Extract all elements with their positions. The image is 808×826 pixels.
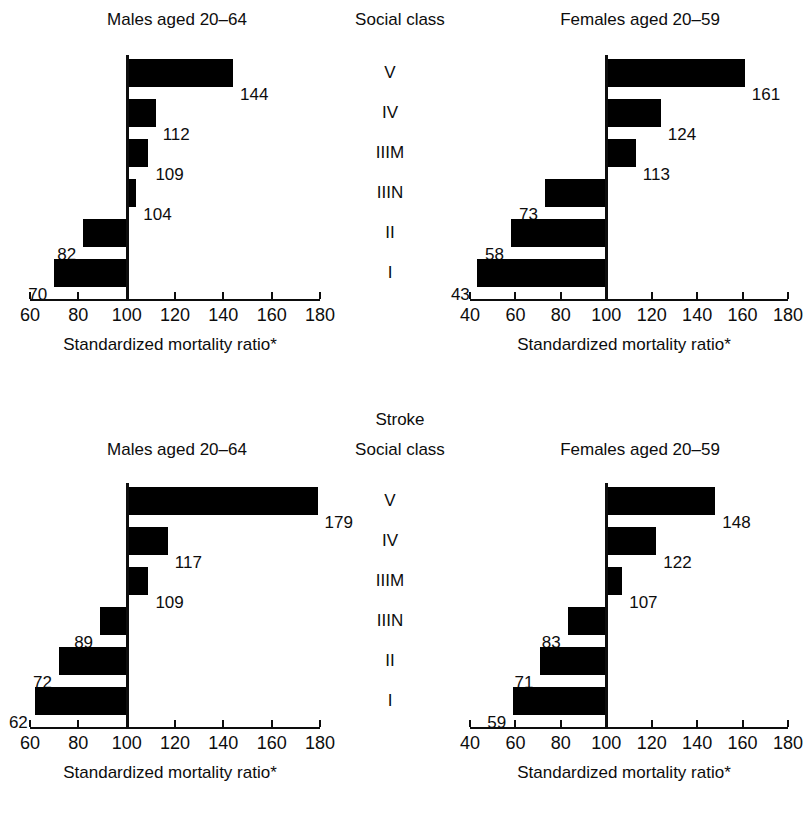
bar — [606, 527, 656, 555]
bar-value-label: 117 — [175, 549, 202, 577]
x-axis-tick — [271, 292, 273, 299]
bar-value-label: 144 — [240, 81, 268, 109]
bar — [35, 687, 127, 715]
social-class-label: IV — [382, 527, 398, 555]
social-class-label: IIIN — [377, 179, 403, 207]
plot-top-right: 161124113735843406080100120140160180Stan… — [440, 55, 808, 340]
x-axis-tick — [651, 292, 653, 299]
x-axis-tick — [469, 720, 471, 727]
bar — [545, 179, 606, 207]
bar — [477, 259, 606, 287]
x-axis-tick — [77, 720, 79, 727]
bar-value-label: 109 — [155, 161, 183, 189]
social-class-label: II — [385, 219, 394, 247]
x-axis-tick — [696, 720, 698, 727]
x-axis-tick — [514, 720, 516, 727]
social-class-column-bottom: VIVIIIMIIINIII — [340, 483, 440, 743]
social-class-label: II — [385, 647, 394, 675]
x-axis-tick — [560, 720, 562, 727]
x-axis-tick — [271, 720, 273, 727]
x-axis-tick-label: 120 — [637, 305, 667, 326]
bar — [513, 687, 606, 715]
x-axis-line — [30, 299, 320, 301]
bar — [127, 99, 156, 127]
bar — [511, 219, 606, 247]
bar — [568, 607, 607, 635]
x-axis-line — [30, 727, 320, 729]
x-axis-tick-label: 120 — [160, 305, 190, 326]
bar — [606, 59, 745, 87]
bar-value-label: 109 — [155, 589, 183, 617]
social-class-label: IIIM — [376, 567, 404, 595]
social-class-label: V — [384, 487, 395, 515]
bar-value-label: 161 — [752, 81, 780, 109]
x-axis-tick — [514, 292, 516, 299]
x-axis-tick-label: 140 — [208, 733, 238, 754]
x-axis-tick — [29, 292, 31, 299]
x-axis-title: Standardized mortality ratio* — [0, 763, 340, 783]
bar — [606, 487, 715, 515]
x-axis-tick-label: 140 — [208, 305, 238, 326]
chart-title-bottom-right: Females aged 20–59 — [520, 440, 760, 460]
x-axis-tick — [651, 720, 653, 727]
bar — [606, 567, 622, 595]
plot-top-left: 14411210910482706080100120140160180Stand… — [0, 55, 340, 340]
x-axis-tick — [319, 292, 321, 299]
x-axis-tick — [560, 292, 562, 299]
section-title-stroke: Stroke — [330, 410, 470, 430]
x-axis-tick-label: 100 — [591, 733, 621, 754]
bar — [54, 259, 127, 287]
x-axis-tick — [29, 720, 31, 727]
x-axis-tick-label: 160 — [728, 733, 758, 754]
x-axis-tick-label: 60 — [505, 305, 525, 326]
chart-title-top-left: Males aged 20–64 — [62, 10, 292, 30]
x-axis-tick-label: 160 — [257, 305, 287, 326]
social-class-header-top: Social class — [330, 10, 470, 30]
x-axis-tick-label: 100 — [591, 305, 621, 326]
social-class-column-top: VIVIIIMIIINIII — [340, 55, 440, 315]
social-class-label: I — [388, 259, 393, 287]
bar — [540, 647, 606, 675]
baseline-100 — [605, 483, 608, 727]
x-axis-tick-label: 120 — [637, 733, 667, 754]
social-class-label: IIIM — [376, 139, 404, 167]
x-axis-tick-label: 80 — [68, 733, 88, 754]
bar — [127, 487, 318, 515]
bar-value-label: 59 — [487, 709, 506, 737]
x-axis-tick-label: 100 — [112, 733, 142, 754]
x-axis-tick-label: 60 — [20, 733, 40, 754]
x-axis-tick — [222, 292, 224, 299]
x-axis-tick-label: 60 — [20, 305, 40, 326]
x-axis-tick-label: 60 — [505, 733, 525, 754]
x-axis-line — [470, 299, 788, 301]
x-axis-tick-label: 80 — [551, 305, 571, 326]
social-class-label: I — [388, 687, 393, 715]
x-axis-tick — [174, 720, 176, 727]
x-axis-tick-label: 140 — [682, 305, 712, 326]
bar — [606, 139, 636, 167]
x-axis-tick — [222, 720, 224, 727]
bar-value-label: 113 — [643, 161, 670, 189]
social-class-label: IIIN — [377, 607, 403, 635]
x-axis-tick-label: 160 — [728, 305, 758, 326]
x-axis-tick-label: 180 — [305, 733, 335, 754]
x-axis-tick — [787, 292, 789, 299]
chart-title-bottom-left: Males aged 20–64 — [62, 440, 292, 460]
social-class-header-bottom: Social class — [330, 440, 470, 460]
x-axis-tick-label: 80 — [68, 305, 88, 326]
x-axis-tick-label: 140 — [682, 733, 712, 754]
x-axis-tick — [126, 720, 128, 727]
x-axis-tick — [742, 292, 744, 299]
x-axis-tick — [696, 292, 698, 299]
x-axis-tick-label: 120 — [160, 733, 190, 754]
x-axis-tick-label: 160 — [257, 733, 287, 754]
x-axis-tick — [787, 720, 789, 727]
bar-value-label: 124 — [668, 121, 696, 149]
bar — [606, 99, 661, 127]
x-axis-tick — [319, 720, 321, 727]
plot-bottom-left: 1791171098972626080100120140160180Standa… — [0, 483, 340, 773]
x-axis-tick — [605, 720, 607, 727]
social-class-label: V — [384, 59, 395, 87]
x-axis-title: Standardized mortality ratio* — [440, 763, 808, 783]
bar-value-label: 104 — [143, 201, 171, 229]
